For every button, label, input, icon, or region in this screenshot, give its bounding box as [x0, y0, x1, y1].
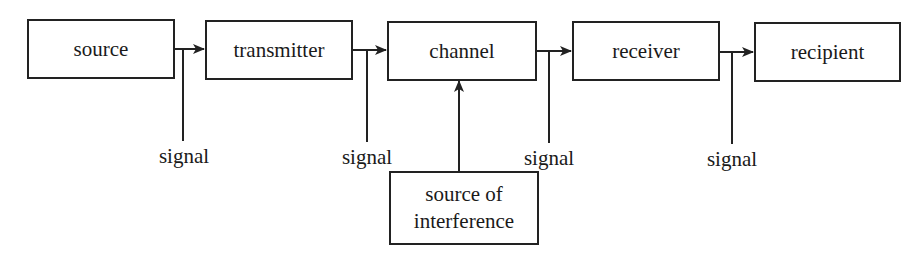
interference-label-line1: source of — [425, 181, 503, 208]
signal-label-2: signal — [342, 145, 392, 169]
source-label: source — [74, 36, 129, 63]
source-box: source — [27, 19, 175, 79]
signal-label-3: signal — [524, 146, 574, 170]
channel-box: channel — [387, 21, 537, 81]
channel-label: channel — [429, 38, 494, 65]
transmitter-box: transmitter — [205, 20, 353, 80]
recipient-box: recipient — [754, 22, 901, 82]
signal-label-1: signal — [159, 144, 209, 168]
source-of-interference-box: source of interference — [389, 171, 539, 245]
receiver-box: receiver — [572, 21, 720, 81]
transmitter-label: transmitter — [234, 37, 325, 64]
receiver-label: receiver — [612, 38, 680, 65]
signal-label-4: signal — [707, 147, 757, 171]
recipient-label: recipient — [791, 39, 864, 66]
interference-label-line2: interference — [414, 208, 514, 235]
